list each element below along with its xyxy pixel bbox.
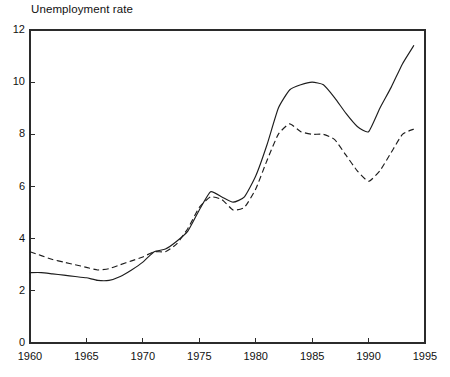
series-line-solid [30, 46, 414, 281]
axes-group [30, 30, 425, 343]
axis-frame [30, 30, 425, 343]
data-series-group [30, 46, 414, 281]
x-axis-ticks [30, 338, 425, 343]
y-axis-ticks [30, 30, 35, 343]
chart-figure: Unemployment rate 024681012 196019651970… [0, 0, 450, 377]
plot-canvas [0, 0, 450, 377]
